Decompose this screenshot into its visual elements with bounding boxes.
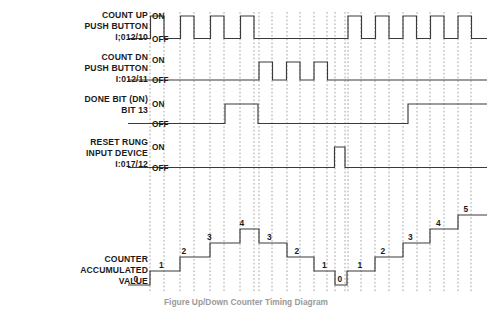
row-label-reset-rung-input-device: RESET RUNG (90, 137, 148, 147)
accumulated-step-value: 4 (436, 218, 441, 228)
accumulated-step-value: 1 (322, 260, 327, 270)
row-label-reset-rung-input-device: INPUT DEVICE (86, 148, 148, 158)
figure-caption: Figure Up/Down Counter Timing Diagram (164, 297, 328, 307)
level-label-off: OFF (152, 164, 169, 173)
figure-background (0, 0, 493, 309)
level-label-off: OFF (152, 120, 169, 129)
accumulated-step-value: 1 (358, 260, 363, 270)
level-label-on: ON (152, 143, 164, 152)
row-label-count-down-push-button: COUNT DN (101, 52, 148, 62)
level-label-on: ON (152, 100, 164, 109)
accumulated-step-value: 3 (267, 232, 272, 242)
accumulated-step-value: 4 (240, 218, 245, 228)
accumulated-step-value: 3 (207, 232, 212, 242)
row-label-count-up-push-button: I;012/10 (115, 32, 148, 42)
level-label-off: OFF (152, 35, 169, 44)
accumulated-step-value: 5 (464, 204, 469, 214)
accumulated-step-value: 3 (408, 232, 413, 242)
level-label-on: ON (152, 12, 164, 21)
row-label-count-down-push-button: I:012/11 (116, 74, 148, 84)
level-label-off: OFF (152, 76, 169, 85)
timing-diagram-figure: COUNT UPPUSH BUTTONI;012/10COUNT DNPUSH … (0, 0, 493, 309)
row-label-done-bit: BIT 13 (121, 105, 148, 115)
accumulated-step-value: 1 (159, 260, 164, 270)
row-label-reset-rung-input-device: I:017/12 (115, 159, 148, 169)
row-label-count-down-push-button: PUSH BUTTON (84, 63, 148, 73)
accumulated-step-value: 2 (295, 246, 300, 256)
timing-diagram-canvas: COUNT UPPUSH BUTTONI;012/10COUNT DNPUSH … (0, 0, 493, 309)
row-label-counter-accumulated-value: ACCUMULATED (80, 265, 148, 275)
accumulated-step-value: 2 (381, 246, 386, 256)
level-label-on: ON (152, 56, 164, 65)
row-label-count-up-push-button: PUSH BUTTON (84, 21, 148, 31)
accumulated-step-value: 0 (134, 274, 139, 284)
accumulated-step-value: 2 (182, 246, 187, 256)
row-label-counter-accumulated-value: COUNTER (104, 254, 148, 264)
row-label-count-up-push-button: COUNT UP (102, 10, 148, 20)
accumulated-step-value: 0 (338, 274, 343, 284)
row-label-done-bit: DONE BIT (DN) (84, 94, 148, 104)
